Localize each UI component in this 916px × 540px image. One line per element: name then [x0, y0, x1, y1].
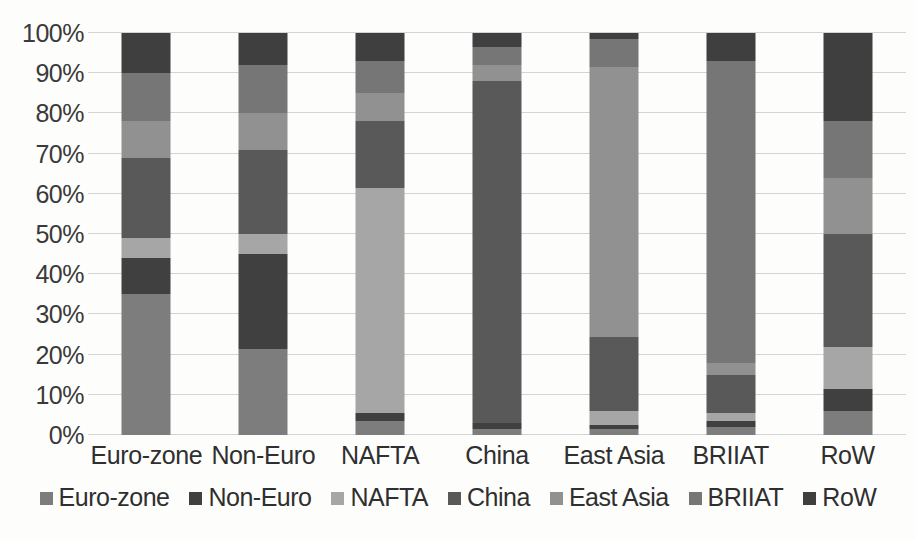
bar-segment[interactable] — [706, 421, 755, 427]
bar-segment[interactable] — [706, 363, 755, 375]
y-axis-tick-label: 80% — [4, 99, 84, 128]
bar-segment[interactable] — [122, 258, 171, 294]
legend-label: RoW — [822, 483, 876, 512]
x-axis-tick-label: Euro-zone — [91, 441, 203, 470]
bar-segment[interactable] — [472, 65, 521, 81]
x-axis-tick-label: East Asia — [564, 441, 665, 470]
bar-segment[interactable] — [589, 425, 638, 429]
plot-area — [88, 33, 906, 435]
y-axis-tick-label: 20% — [4, 340, 84, 369]
legend-label: NAFTA — [350, 483, 428, 512]
bar-segment[interactable] — [823, 347, 872, 389]
bar-segment[interactable] — [239, 65, 288, 113]
bar-segment[interactable] — [356, 421, 405, 435]
legend-swatch-icon — [448, 492, 461, 505]
x-axis-tick-label: NAFTA — [341, 441, 419, 470]
legend-label: East Asia — [569, 483, 669, 512]
legend-item[interactable]: NAFTA — [331, 483, 428, 512]
stacked-bar-chart: 0%10%20%30%40%50%60%70%80%90%100% Euro-z… — [0, 0, 916, 540]
bar-segment[interactable] — [472, 423, 521, 429]
y-axis-tick-label: 0% — [4, 421, 84, 450]
stacked-bar[interactable] — [823, 33, 872, 435]
bar-segment[interactable] — [823, 178, 872, 234]
bar-segment[interactable] — [122, 238, 171, 258]
y-axis-tick-label: 100% — [4, 19, 84, 48]
bar-segment[interactable] — [239, 113, 288, 149]
bar-group — [789, 33, 906, 435]
legend-label: BRIIAT — [708, 483, 784, 512]
bar-segment[interactable] — [356, 121, 405, 187]
bar-segment[interactable] — [472, 33, 521, 47]
bar-segment[interactable] — [706, 427, 755, 435]
y-axis-tick-label: 30% — [4, 300, 84, 329]
bar-segment[interactable] — [589, 411, 638, 425]
legend-item[interactable]: BRIIAT — [689, 483, 784, 512]
bar-segment[interactable] — [589, 429, 638, 435]
bar-segment[interactable] — [823, 389, 872, 411]
bar-group — [322, 33, 439, 435]
bar-segment[interactable] — [706, 413, 755, 421]
bar-segment[interactable] — [472, 47, 521, 65]
bar-segment[interactable] — [356, 33, 405, 61]
bar-segment[interactable] — [356, 93, 405, 121]
stacked-bar[interactable] — [122, 33, 171, 435]
y-axis: 0%10%20%30%40%50%60%70%80%90%100% — [0, 33, 84, 435]
x-axis-tick-label: Non-Euro — [211, 441, 315, 470]
bar-segment[interactable] — [823, 234, 872, 347]
x-axis-tick-label: RoW — [820, 441, 874, 470]
bar-segment[interactable] — [472, 81, 521, 423]
stacked-bar[interactable] — [356, 33, 405, 435]
bar-segment[interactable] — [239, 33, 288, 65]
bar-segment[interactable] — [122, 73, 171, 121]
bar-group — [555, 33, 672, 435]
x-axis-tick-label: BRIIAT — [693, 441, 769, 470]
bar-segment[interactable] — [823, 411, 872, 435]
bar-segment[interactable] — [589, 337, 638, 411]
bar-segment[interactable] — [356, 188, 405, 413]
legend-item[interactable]: RoW — [803, 483, 876, 512]
x-axis-tick-label: China — [465, 441, 528, 470]
legend-label: Euro-zone — [59, 483, 170, 512]
bar-segment[interactable] — [823, 121, 872, 177]
legend-item[interactable]: Euro-zone — [40, 483, 170, 512]
y-axis-tick-label: 90% — [4, 59, 84, 88]
legend-label: China — [467, 483, 530, 512]
legend-item[interactable]: China — [448, 483, 530, 512]
stacked-bar[interactable] — [706, 33, 755, 435]
x-axis: Euro-zoneNon-EuroNAFTAChinaEast AsiaBRII… — [88, 441, 906, 475]
bar-segment[interactable] — [122, 158, 171, 238]
bar-segment[interactable] — [239, 150, 288, 234]
stacked-bar[interactable] — [589, 33, 638, 435]
bar-segment[interactable] — [356, 413, 405, 421]
legend-item[interactable]: Non-Euro — [189, 483, 311, 512]
bar-segment[interactable] — [823, 33, 872, 121]
y-axis-tick-label: 60% — [4, 179, 84, 208]
legend-swatch-icon — [189, 492, 202, 505]
bar-group — [672, 33, 789, 435]
bar-segment[interactable] — [706, 61, 755, 363]
bar-segment[interactable] — [589, 67, 638, 336]
bar-segment[interactable] — [589, 33, 638, 39]
legend-swatch-icon — [550, 492, 563, 505]
bar-segment[interactable] — [706, 33, 755, 61]
chart-legend: Euro-zoneNon-EuroNAFTAChinaEast AsiaBRII… — [0, 483, 916, 523]
y-axis-tick-label: 70% — [4, 139, 84, 168]
legend-label: Non-Euro — [208, 483, 311, 512]
legend-item[interactable]: East Asia — [550, 483, 669, 512]
bar-segment[interactable] — [122, 33, 171, 73]
stacked-bar[interactable] — [472, 33, 521, 435]
bar-segment[interactable] — [122, 121, 171, 157]
bar-segment[interactable] — [122, 294, 171, 435]
legend-swatch-icon — [803, 492, 816, 505]
bar-group — [88, 33, 205, 435]
bar-segment[interactable] — [239, 254, 288, 348]
stacked-bar[interactable] — [239, 33, 288, 435]
bar-segment[interactable] — [706, 375, 755, 413]
bar-segment[interactable] — [239, 234, 288, 254]
bar-segment[interactable] — [472, 429, 521, 435]
bar-segment[interactable] — [589, 39, 638, 67]
legend-swatch-icon — [689, 492, 702, 505]
bar-segment[interactable] — [239, 349, 288, 435]
bar-segment[interactable] — [356, 61, 405, 93]
bar-group — [439, 33, 556, 435]
